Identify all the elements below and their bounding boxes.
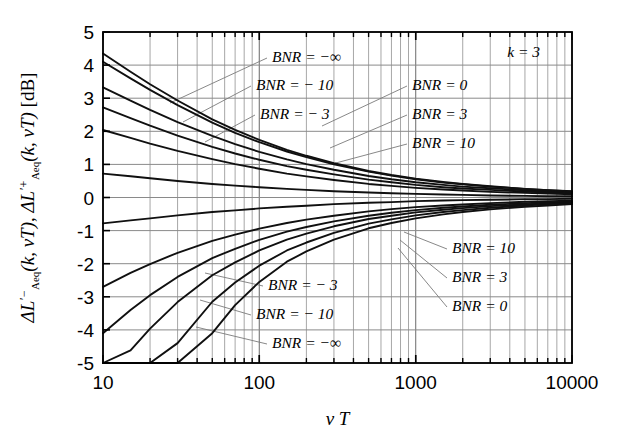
bnr-annotation-label: BNR = 10 [452,239,515,256]
x-tick-label: 100 [243,372,275,393]
y-tick-label: -3 [77,287,94,308]
y-tick-label: -1 [77,221,94,242]
bnr-annotation-label: BNR = −∞ [272,48,341,65]
y-tick-label: 0 [83,188,94,209]
y-tick-label: 1 [83,154,94,175]
bnr-annotation-label: BNR = 10 [412,134,475,151]
x-tick-label: 1000 [395,372,437,393]
y-tick-label: -2 [77,254,94,275]
k-parameter-label: k = 3 [507,43,540,60]
bnr-annotation-label: BNR = −∞ [272,334,341,351]
y-tick-label: 5 [83,22,94,43]
bnr-annotation-label: BNR = 0 [412,76,467,93]
bnr-annotation-label: BNR = 0 [452,297,507,314]
bnr-annotation-label: BNR = − 10 [256,76,334,93]
x-tick-label: 10 [92,372,113,393]
figure-container: 10100100010000 543210-1-2-3-4-5 BNR = −∞… [0,0,637,442]
y-tick-label: 3 [83,88,94,109]
chart-svg: 10100100010000 543210-1-2-3-4-5 BNR = −∞… [0,0,637,442]
bnr-annotation-label: BNR = − 10 [256,305,334,322]
bnr-annotation-label: BNR = − 3 [268,276,338,293]
y-tick-label: -4 [77,320,94,341]
y-tick-label: -5 [77,353,94,374]
x-axis-title: ν T [326,408,351,429]
bnr-annotation-label: BNR = 3 [452,268,507,285]
y-tick-label: 4 [83,55,94,76]
x-tick-label: 10000 [546,372,599,393]
y-tick-label: 2 [83,121,94,142]
bnr-annotation-label: BNR = 3 [412,105,467,122]
bnr-annotation-label: BNR = − 3 [260,105,330,122]
